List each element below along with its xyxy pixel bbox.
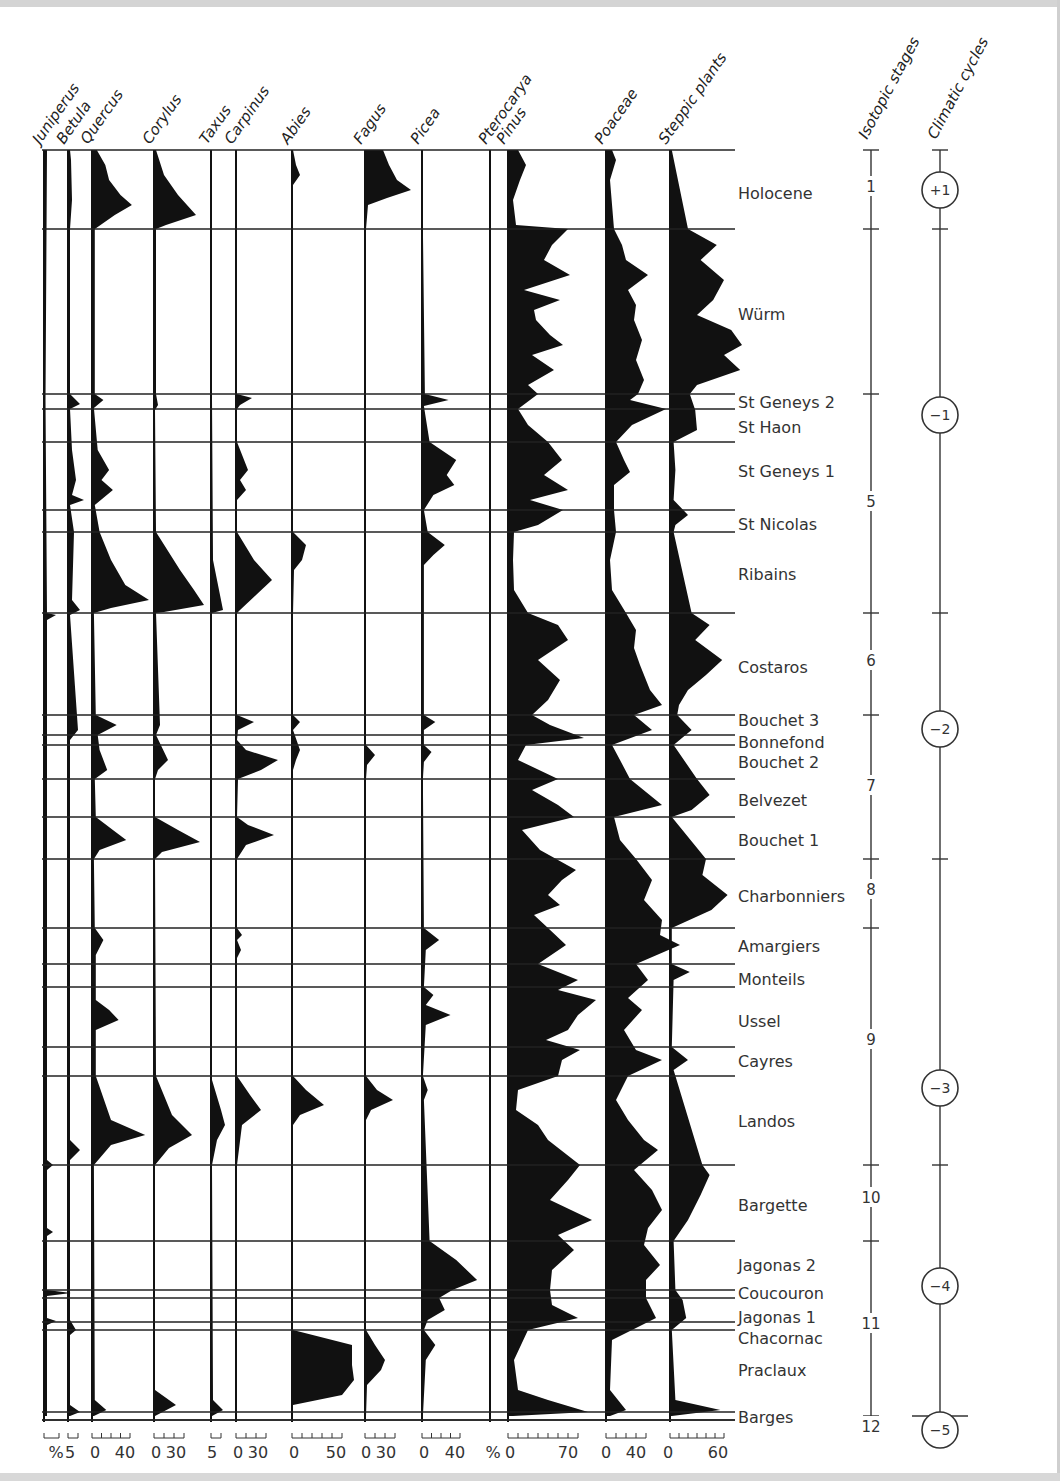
pollen-curve-quercus <box>92 150 149 1416</box>
scale-label: 50 <box>326 1443 346 1462</box>
scale-label: 30 <box>248 1443 268 1462</box>
scale-label: 30 <box>166 1443 186 1462</box>
stage-label: 5 <box>866 493 876 511</box>
climatic-cycles-title: Climatic cycles <box>924 34 993 142</box>
scale-label: 0 <box>233 1443 243 1462</box>
scale-label: 0 <box>419 1443 429 1462</box>
pollen-curve-corylus <box>154 150 204 1416</box>
zone-label: Praclaux <box>738 1361 806 1380</box>
cycle-label: +1 <box>930 182 951 198</box>
scale-label: 0 <box>663 1443 673 1462</box>
climatic-cycles-column: Climatic cycles+1−1−2−3−4−5 <box>912 34 992 1448</box>
cycle-label: −5 <box>930 1422 951 1438</box>
pollen-curves <box>44 150 742 1416</box>
zone-label: Bargette <box>738 1196 807 1215</box>
zone-label: Holocene <box>738 184 813 203</box>
taxon-axes <box>44 150 670 1422</box>
scale-bars: %50400305030050030040%070040060 <box>44 1433 728 1462</box>
cycle-label: −1 <box>930 407 951 423</box>
scale-label: 5 <box>207 1443 217 1462</box>
pollen-curve-steppic-plants <box>670 150 742 1416</box>
zone-label: Bouchet 2 <box>738 753 819 772</box>
pollen-curve-pinus <box>508 150 596 1416</box>
zone-label: Coucouron <box>738 1284 824 1303</box>
pollen-curve-poaceae <box>606 150 680 1416</box>
zone-label: Würm <box>738 305 785 324</box>
scale-label: % <box>485 1443 500 1462</box>
scale-label: 60 <box>708 1443 728 1462</box>
pollen-diagram: JuniperusBetulaQuercusCorylusTaxusCarpin… <box>0 0 1060 1481</box>
scale-label: 0 <box>90 1443 100 1462</box>
zone-label: St Geneys 2 <box>738 393 835 412</box>
scale-label: 0 <box>601 1443 611 1462</box>
stage-label: 8 <box>866 881 876 899</box>
taxon-label: Corylus <box>139 91 186 147</box>
zone-label: Barges <box>738 1408 793 1427</box>
pollen-curve-fagus <box>365 150 411 1416</box>
zone-label: Bouchet 1 <box>738 831 819 850</box>
zone-label: Chacornac <box>738 1329 823 1348</box>
cycle-label: −4 <box>930 1278 951 1294</box>
scale-label: 70 <box>558 1443 578 1462</box>
isotopic-stages-title: Isotopic stages <box>855 34 924 142</box>
zone-label: Cayres <box>738 1052 793 1071</box>
scale-label: 5 <box>65 1443 75 1462</box>
zone-label: St Haon <box>738 418 801 437</box>
taxon-labels: JuniperusBetulaQuercusCorylusTaxusCarpin… <box>27 49 731 150</box>
scale-label: % <box>48 1443 63 1462</box>
zone-label: Ribains <box>738 565 796 584</box>
zone-label: Amargiers <box>738 937 820 956</box>
zone-label: Costaros <box>738 658 808 677</box>
zone-label: St Nicolas <box>738 515 817 534</box>
cycle-label: −2 <box>930 721 951 737</box>
stage-label: 11 <box>861 1315 880 1333</box>
cycle-label: −3 <box>930 1080 951 1096</box>
pollen-curve-carpinus <box>236 150 278 1416</box>
taxon-label: Fagus <box>350 100 390 147</box>
isotopic-stages-column: Isotopic stages156789101112 <box>855 34 924 1436</box>
scale-label: 40 <box>115 1443 135 1462</box>
scale-label: 0 <box>151 1443 161 1462</box>
scale-label: 0 <box>361 1443 371 1462</box>
zone-label: Jagonas 2 <box>737 1256 816 1275</box>
zone-label: Bouchet 3 <box>738 711 819 730</box>
pollen-curve-abies <box>292 150 354 1416</box>
stage-label: 7 <box>866 777 876 795</box>
scale-label: 40 <box>626 1443 646 1462</box>
taxon-label: Steppic plants <box>655 49 731 147</box>
zone-label: Charbonniers <box>738 887 845 906</box>
zone-label: St Geneys 1 <box>738 462 835 481</box>
stage-label: 9 <box>866 1031 876 1049</box>
stage-label: 6 <box>866 652 876 670</box>
scale-label: 0 <box>289 1443 299 1462</box>
taxon-label: Picea <box>407 104 445 147</box>
stage-label: 1 <box>866 178 876 196</box>
zone-label: Belvezet <box>738 791 807 810</box>
pollen-curve-picea <box>422 150 477 1416</box>
stage-label: 12 <box>861 1418 880 1436</box>
scale-label: 0 <box>505 1443 515 1462</box>
zone-label: Jagonas 1 <box>737 1308 816 1327</box>
taxon-label: Abies <box>276 103 315 148</box>
pollen-curve-taxus <box>211 150 225 1416</box>
stage-label: 10 <box>861 1189 880 1207</box>
zone-labels: HoloceneWürmSt Geneys 2St HaonSt Geneys … <box>737 184 845 1427</box>
zone-label: Landos <box>738 1112 795 1131</box>
scale-label: 40 <box>445 1443 465 1462</box>
zone-label: Bonnefond <box>738 733 825 752</box>
taxon-label: Poaceae <box>591 85 642 147</box>
zone-label: Monteils <box>738 970 805 989</box>
zone-label: Ussel <box>738 1012 781 1031</box>
pollen-curve-betula <box>68 150 84 1416</box>
pollen-curve-juniperus <box>44 150 71 1416</box>
scale-label: 30 <box>376 1443 396 1462</box>
